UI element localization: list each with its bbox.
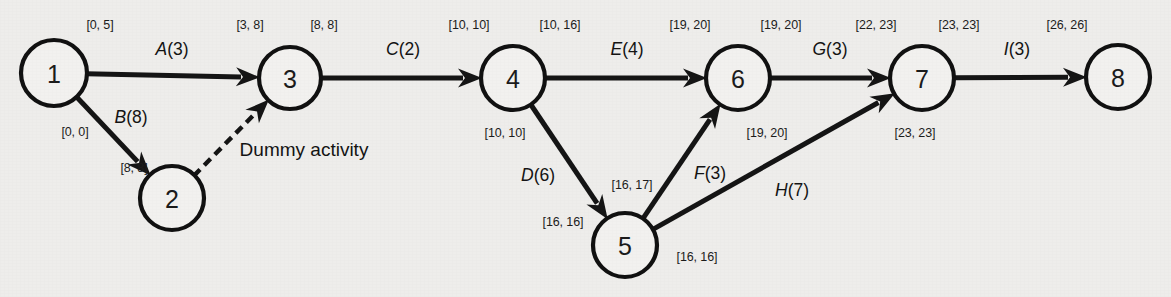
time-window-label-t-8-top: [26, 26] bbox=[1047, 18, 1088, 32]
activity-letter: G bbox=[812, 39, 826, 59]
network-diagram-canvas: A(3)B(8)Dummy activityC(2)D(6)E(4)F(3)G(… bbox=[0, 0, 1171, 297]
time-window-label-t-3-out: [8, 8] bbox=[310, 18, 337, 32]
node-circle-3[interactable] bbox=[259, 47, 321, 109]
node-circle-5[interactable] bbox=[593, 213, 657, 277]
time-window-label-t-1-top: [0, 5] bbox=[86, 18, 113, 32]
activity-duration: (3) bbox=[1009, 39, 1030, 59]
time-window-label-t-7-out: [23, 23] bbox=[939, 18, 980, 32]
time-window-label-t-6-out: [19, 20] bbox=[761, 18, 802, 32]
time-window-label-t-4-out: [10, 16] bbox=[540, 18, 581, 32]
node-circle-7[interactable] bbox=[890, 46, 954, 110]
node-circle-4[interactable] bbox=[481, 46, 545, 110]
node-circle-1[interactable] bbox=[21, 40, 87, 106]
time-window-label-t-1-bot: [0, 0] bbox=[61, 125, 88, 139]
activity-letter: A bbox=[155, 39, 167, 59]
activity-duration: (2) bbox=[399, 39, 420, 59]
activity-letter: H bbox=[775, 180, 788, 200]
activity-letter: C bbox=[386, 39, 399, 59]
activity-label-b: B(8) bbox=[114, 107, 147, 128]
activity-letter: B bbox=[114, 107, 126, 127]
activity-label-f: F(3) bbox=[694, 163, 726, 184]
activity-label-a: A(3) bbox=[155, 39, 188, 60]
time-window-label-t-7-in: [22, 23] bbox=[856, 18, 897, 32]
activity-label-c: C(2) bbox=[386, 39, 420, 60]
time-window-label-t-6-in: [19, 20] bbox=[670, 18, 711, 32]
activity-duration: (4) bbox=[622, 39, 643, 59]
activity-letter: D bbox=[521, 165, 534, 185]
node-circle-8[interactable] bbox=[1086, 45, 1150, 109]
activity-letter: F bbox=[694, 163, 705, 183]
time-window-label-t-2-left: [8, 8] bbox=[120, 161, 147, 175]
activity-duration: (3) bbox=[826, 39, 847, 59]
time-window-label-t-7-bot: [23, 23] bbox=[895, 126, 936, 140]
activity-label-i: I(3) bbox=[1004, 39, 1030, 60]
time-window-label-t-5-left: [16, 16] bbox=[543, 215, 584, 229]
time-window-label-t-5-right: [16, 16] bbox=[677, 250, 718, 264]
time-window-label-t-4-in: [10, 10] bbox=[449, 18, 490, 32]
activity-label-d: D(6) bbox=[521, 165, 555, 186]
time-window-label-t-4-bot: [10, 10] bbox=[485, 126, 526, 140]
time-window-label-t-5-top: [16, 17] bbox=[612, 178, 653, 192]
node-circle-6[interactable] bbox=[706, 46, 770, 110]
time-window-label-t-6-bot: [19, 20] bbox=[747, 126, 788, 140]
activity-letter: E bbox=[610, 39, 622, 59]
node-circle-2[interactable] bbox=[140, 166, 204, 230]
activity-label-e: E(4) bbox=[610, 39, 643, 60]
dummy-activity-label: Dummy activity bbox=[240, 139, 369, 161]
activity-label-g: G(3) bbox=[812, 39, 847, 60]
activity-duration: (8) bbox=[126, 107, 147, 127]
activity-duration: (3) bbox=[167, 39, 188, 59]
activity-duration: (7) bbox=[788, 180, 809, 200]
activity-duration: (3) bbox=[705, 163, 726, 183]
activity-duration: (6) bbox=[534, 165, 555, 185]
activity-label-h: H(7) bbox=[775, 180, 809, 201]
time-window-label-t-3-in: [3, 8] bbox=[236, 18, 263, 32]
